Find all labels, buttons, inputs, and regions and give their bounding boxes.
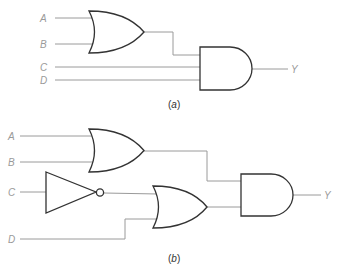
or-gate-b-2 xyxy=(153,186,207,228)
input-label-a-D: D xyxy=(40,75,47,86)
input-label-a-A: A xyxy=(39,13,47,24)
wire-a-or-to-and xyxy=(144,32,200,55)
logic-circuit-diagrams: A B C D Y (a) A B C D xyxy=(0,0,340,271)
caption-b: (b) xyxy=(168,253,180,264)
and-gate-b xyxy=(241,174,293,216)
output-label-a-Y: Y xyxy=(291,64,299,75)
and-gate-a xyxy=(200,47,252,90)
not-gate-b xyxy=(46,172,96,213)
circuit-a: A B C D Y (a) xyxy=(39,11,299,110)
output-label-b-Y: Y xyxy=(324,190,332,201)
input-label-a-B: B xyxy=(40,39,47,50)
wire-b-or1-to-and xyxy=(144,151,241,181)
caption-a: (a) xyxy=(168,99,180,110)
wire-b-notC-to-or2 xyxy=(104,193,158,194)
or-gate-a xyxy=(89,11,144,53)
circuit-b: A B C D Y (b) xyxy=(7,129,332,264)
inverter-bubble-b xyxy=(96,189,103,196)
input-label-b-C: C xyxy=(8,187,16,198)
or-gate-b-1 xyxy=(89,129,144,172)
input-label-b-D: D xyxy=(8,234,15,245)
input-label-b-B: B xyxy=(8,157,15,168)
input-label-b-A: A xyxy=(7,131,15,142)
input-label-a-C: C xyxy=(40,62,48,73)
wire-b-D xyxy=(20,219,158,239)
